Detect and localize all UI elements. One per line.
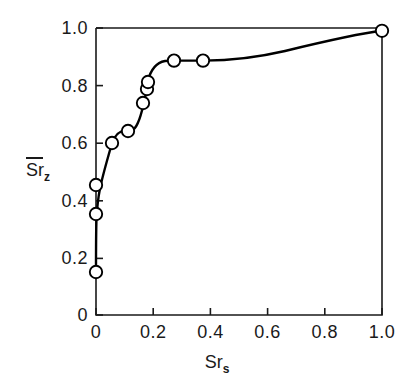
x-tick-label-0.6: 0.6 xyxy=(254,322,281,343)
chart-figure: 1.0 0.8 0.6 0.4 0.2 0 0 0.2 0.4 0.6 0.8 … xyxy=(0,0,416,388)
x-tick-label-0.2: 0.2 xyxy=(140,322,167,343)
data-curve xyxy=(96,31,382,272)
x-tick-label-0.4: 0.4 xyxy=(197,322,224,343)
data-point xyxy=(137,97,149,109)
y-tick-label-0.6: 0.6 xyxy=(38,133,88,154)
x-tick-label-0: 0 xyxy=(91,322,102,343)
data-point xyxy=(90,179,102,191)
data-point xyxy=(197,54,209,66)
x-axis-title-base: Sr xyxy=(205,352,223,372)
y-tick-label-0.8: 0.8 xyxy=(38,75,88,96)
y-tick-label-1.0: 1.0 xyxy=(38,18,88,39)
data-point xyxy=(168,54,180,66)
y-tick-label-0: 0 xyxy=(38,305,88,326)
data-point xyxy=(90,266,102,278)
y-tick-label-0.4: 0.4 xyxy=(38,190,88,211)
data-point xyxy=(106,137,118,149)
axis-frame xyxy=(96,28,382,315)
x-axis-ticks xyxy=(96,308,382,315)
data-markers xyxy=(90,25,388,279)
data-point xyxy=(122,125,134,137)
x-axis-title: Srs xyxy=(205,352,230,376)
data-point xyxy=(376,25,388,37)
y-axis-title: Srz xyxy=(26,160,50,184)
x-tick-label-0.8: 0.8 xyxy=(312,322,339,343)
x-axis-title-subscript: s xyxy=(223,362,230,376)
x-tick-label-1.0: 1.0 xyxy=(369,322,396,343)
y-axis-title-subscript: z xyxy=(44,170,50,184)
data-point xyxy=(90,208,102,220)
y-tick-label-0.2: 0.2 xyxy=(38,248,88,269)
y-axis-title-base: Sr xyxy=(26,160,44,181)
data-point xyxy=(142,76,154,88)
